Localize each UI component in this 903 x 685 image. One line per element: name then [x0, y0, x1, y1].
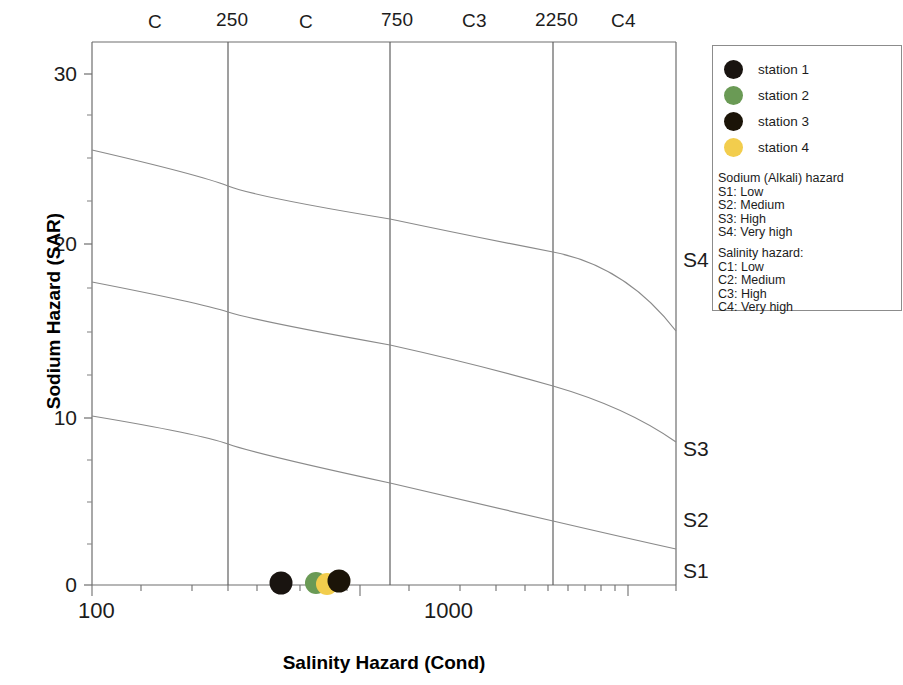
legend-note-sodium: Sodium (Alkali) hazard S1: Low S2: Mediu… — [718, 172, 903, 240]
legend-note-c4: C4: Very high — [718, 301, 903, 315]
legend-item-station-3[interactable]: station 3 — [724, 108, 894, 134]
legend-note-s2: S2: Medium — [718, 199, 903, 213]
x-tick-label-100: 100 — [78, 600, 115, 622]
top-axis-label-c4: C4 — [611, 11, 636, 30]
data-point-station-1 — [270, 572, 293, 595]
legend-note-c1: C1: Low — [718, 261, 903, 275]
legend-label-station-4: station 4 — [758, 140, 809, 155]
right-axis-label-s2: S2 — [683, 509, 709, 530]
data-point-station-3 — [328, 570, 351, 593]
top-axis-label-c1: C — [148, 12, 162, 31]
legend-item-station-1[interactable]: station 1 — [724, 56, 894, 82]
y-axis-minor-ticks — [87, 115, 92, 544]
sodium-boundary-s3-s4 — [92, 150, 676, 331]
legend-label-station-2: station 2 — [758, 88, 809, 103]
legend-note-s3: S3: High — [718, 213, 903, 227]
legend-item-station-2[interactable]: station 2 — [724, 82, 894, 108]
legend-marker-station-2 — [724, 86, 743, 105]
legend-notes: Sodium (Alkali) hazard S1: Low S2: Mediu… — [718, 172, 903, 322]
top-axis-label-c3: C3 — [462, 11, 487, 30]
legend-marker-station-3 — [724, 112, 743, 131]
top-axis-label-c2: C — [299, 12, 313, 31]
legend-note-c2: C2: Medium — [718, 274, 903, 288]
y-axis-major-ticks — [84, 74, 92, 585]
x-tick-label-1000: 1000 — [424, 600, 473, 622]
top-axis-label-750: 750 — [381, 10, 413, 29]
right-axis-label-s4: S4 — [683, 249, 709, 270]
legend-note-salinity: Salinity hazard: C1: Low C2: Medium C3: … — [718, 247, 903, 315]
y-tick-label-0: 0 — [22, 574, 77, 595]
legend-item-station-4[interactable]: station 4 — [724, 134, 894, 160]
x-axis-title: Salinity Hazard (Cond) — [92, 652, 676, 674]
sodium-boundary-s1-s2 — [92, 416, 676, 549]
legend-note-c3: C3: High — [718, 288, 903, 302]
top-axis-label-2250: 2250 — [535, 10, 578, 29]
legend-note-s4: S4: Very high — [718, 226, 903, 240]
right-axis-label-s3: S3 — [683, 438, 709, 459]
sodium-boundary-s2-s3 — [92, 282, 676, 442]
legend-label-station-1: station 1 — [758, 62, 809, 77]
data-points — [270, 570, 351, 596]
legend-marker-station-1 — [724, 60, 743, 79]
y-tick-label-30: 30 — [22, 63, 77, 84]
legend-label-station-3: station 3 — [758, 114, 809, 129]
legend-note-sodium-heading: Sodium (Alkali) hazard — [718, 172, 903, 186]
legend-series-list: station 1 station 2 station 3 station 4 — [724, 56, 894, 160]
x-axis-minor-ticks — [92, 585, 676, 596]
y-axis-title: Sodium Hazard (SAR) — [43, 161, 65, 461]
top-axis-label-250: 250 — [216, 10, 248, 29]
right-axis-label-s1: S1 — [683, 560, 709, 581]
legend-note-s1: S1: Low — [718, 186, 903, 200]
legend-marker-station-4 — [724, 138, 743, 157]
legend-note-salinity-heading: Salinity hazard: — [718, 247, 903, 261]
